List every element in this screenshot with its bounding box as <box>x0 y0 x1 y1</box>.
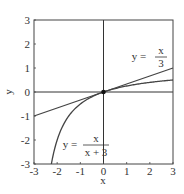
svg-text:x: x <box>93 132 99 144</box>
y-tick-label: 3 <box>25 14 31 26</box>
svg-text:x + 3: x + 3 <box>85 146 108 158</box>
x-tick-label: -2 <box>53 165 62 177</box>
svg-text:3: 3 <box>158 57 164 69</box>
origin-point <box>101 90 106 95</box>
x-tick-label: 3 <box>170 165 176 177</box>
y-tick-label: 1 <box>25 62 31 74</box>
y-tick-label: -3 <box>21 158 31 170</box>
x-tick-label: -3 <box>29 165 39 177</box>
y-tick-label: 0 <box>25 86 31 98</box>
y-tick-label: -1 <box>21 110 30 122</box>
x-tick-label: 2 <box>147 165 153 177</box>
svg-text:x: x <box>158 44 164 56</box>
plot-area <box>34 20 173 164</box>
x-axis-label: x <box>100 174 106 186</box>
x-tick-label: 1 <box>124 165 130 177</box>
x-tick-label: -1 <box>76 165 85 177</box>
annotation-x-over-3: y = x 3 <box>132 44 167 69</box>
svg-text:y =: y = <box>132 50 146 62</box>
y-axis-label: y <box>2 89 14 95</box>
curve-x-over-x-plus-3 <box>51 80 173 164</box>
chart: -3-2-10123-3-2-10123 x y y = x 3 y = x x… <box>0 0 184 194</box>
annotation-x-over-x-plus-3: y = x x + 3 <box>63 132 109 158</box>
svg-text:y =: y = <box>63 138 77 150</box>
y-tick-label: -2 <box>21 134 30 146</box>
y-tick-label: 2 <box>25 38 31 50</box>
